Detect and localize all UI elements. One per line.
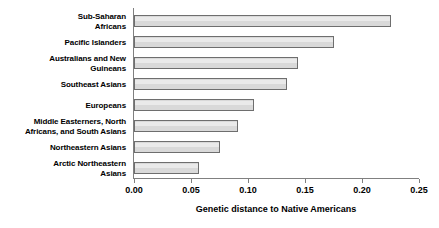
bar-australians-and-new-guineans: [134, 57, 298, 69]
category-label-middle-easterners-north-africans-south-asians: Middle Easterners, North Africans, and S…: [0, 117, 126, 136]
bar-sub-saharan-africans: [134, 15, 391, 27]
bar-europeans: [134, 99, 254, 111]
x-tick-label-2: 0.10: [228, 185, 268, 195]
x-tick-label-3: 0.15: [285, 185, 325, 195]
bar-pacific-islanders: [134, 36, 334, 48]
x-tick-mark-2: [248, 179, 249, 183]
x-tick-mark-0: [134, 179, 135, 183]
category-label-australians-and-new-guineans: Australians and New Guineans: [0, 54, 126, 73]
category-label-northeastern-asians: Northeastern Asians: [0, 143, 126, 153]
category-label-pacific-islanders: Pacific Islanders: [0, 38, 126, 48]
x-tick-label-4: 0.20: [342, 185, 382, 195]
category-label-europeans: Europeans: [0, 101, 126, 111]
category-label-sub-saharan-africans: Sub-Saharan Africans: [0, 12, 126, 31]
x-tick-mark-3: [305, 179, 306, 183]
bar-chart-figure: Sub-Saharan Africans Pacific Islanders A…: [0, 0, 439, 228]
bar-arctic-northeastern-asians: [134, 162, 199, 174]
category-label-southeast-asians: Southeast Asians: [0, 80, 126, 90]
x-axis-line: [133, 178, 419, 179]
x-tick-label-1: 0.05: [171, 185, 211, 195]
x-tick-mark-5: [419, 179, 420, 183]
plot-area: 0.00 0.05 0.10 0.15 0.20 0.25: [133, 8, 419, 178]
bar-northeastern-asians: [134, 141, 220, 153]
bar-southeast-asians: [134, 78, 287, 90]
x-tick-mark-4: [362, 179, 363, 183]
x-axis-title: Genetic distance to Native Americans: [133, 204, 419, 214]
x-tick-mark-1: [191, 179, 192, 183]
x-tick-label-0: 0.00: [114, 185, 154, 195]
category-axis: Sub-Saharan Africans Pacific Islanders A…: [0, 8, 130, 178]
bar-middle-easterners-north-africans-south-asians: [134, 120, 238, 132]
x-tick-label-5: 0.25: [399, 185, 439, 195]
category-label-arctic-northeastern-asians: Arctic Northeastern Asians: [0, 159, 126, 178]
